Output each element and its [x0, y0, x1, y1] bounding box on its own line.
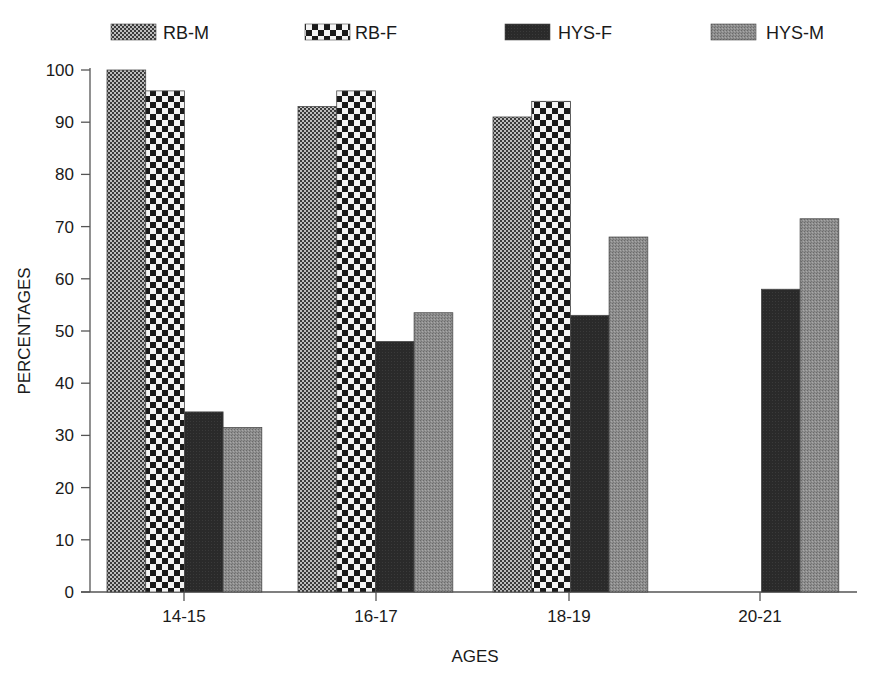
legend-label: RB-F: [355, 23, 397, 43]
bar-hys-m-20-21: [800, 219, 839, 592]
legend-item-hys-m: HYS-M: [711, 23, 824, 43]
legend-label: HYS-M: [766, 23, 824, 43]
bar-hys-f-14-15: [184, 412, 223, 592]
y-tick-label: 40: [55, 374, 74, 393]
y-tick-label: 10: [55, 531, 74, 550]
legend-item-rb-f: RB-F: [305, 23, 397, 43]
legend-item-hys-f: HYS-F: [505, 23, 612, 43]
chart-legend: RB-MRB-FHYS-FHYS-M: [111, 23, 824, 43]
bar-rb-m-18-19: [493, 117, 532, 592]
y-axis: 0102030405060708090100: [46, 61, 90, 602]
y-tick-label: 90: [55, 113, 74, 132]
bar-hys-f-20-21: [761, 289, 800, 592]
y-tick-label: 20: [55, 479, 74, 498]
bar-hys-m-14-15: [223, 428, 262, 592]
y-tick-label: 30: [55, 426, 74, 445]
legend-swatch: [505, 24, 550, 40]
bar-rb-m-16-17: [298, 107, 337, 592]
bar-hys-f-16-17: [375, 341, 414, 592]
x-tick-label: 16-17: [354, 607, 397, 626]
legend-swatch: [111, 24, 156, 40]
legend-item-rb-m: RB-M: [111, 23, 209, 43]
legend-label: HYS-F: [558, 23, 612, 43]
x-axis: 14-1516-1718-1920-21: [81, 592, 857, 626]
bar-hys-m-18-19: [609, 237, 648, 592]
bar-hys-f-18-19: [570, 315, 609, 592]
bar-rb-m-14-15: [107, 70, 146, 592]
x-tick-label: 20-21: [738, 607, 781, 626]
y-tick-label: 60: [55, 270, 74, 289]
y-tick-label: 80: [55, 165, 74, 184]
x-tick-label: 18-19: [547, 607, 590, 626]
x-tick-label: 14-15: [162, 607, 205, 626]
y-axis-title: PERCENTAGES: [15, 267, 34, 394]
bar-rb-f-16-17: [337, 91, 376, 592]
legend-swatch: [305, 24, 350, 40]
x-axis-title: AGES: [451, 647, 498, 666]
bar-chart: RB-MRB-FHYS-FHYS-M 010203040506070809010…: [0, 0, 873, 685]
legend-swatch: [711, 24, 756, 40]
bars: [107, 70, 839, 592]
bar-rb-f-14-15: [146, 91, 185, 592]
legend-label: RB-M: [163, 23, 209, 43]
y-tick-label: 100: [46, 61, 74, 80]
bar-rb-f-18-19: [532, 101, 571, 592]
y-tick-label: 0: [65, 583, 74, 602]
y-tick-label: 50: [55, 322, 74, 341]
y-tick-label: 70: [55, 218, 74, 237]
bar-hys-m-16-17: [414, 313, 453, 592]
